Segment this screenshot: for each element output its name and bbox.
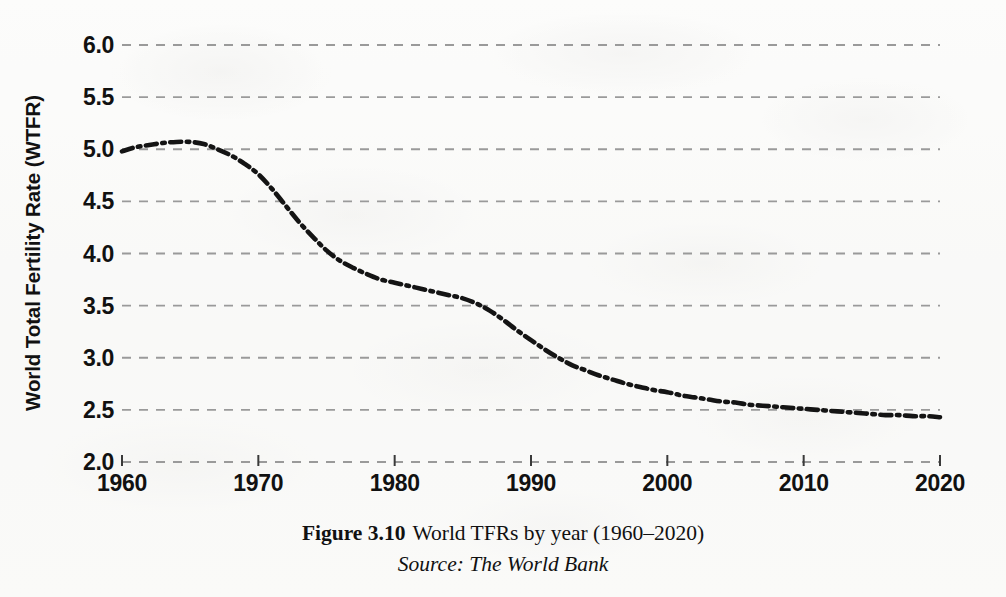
figure-number: Figure 3.10 <box>302 521 406 545</box>
x-axis-tick-marks <box>122 455 940 466</box>
figure-caption: Figure 3.10World TFRs by year (1960–2020… <box>0 521 1006 546</box>
wtfr-data-line <box>122 142 940 417</box>
plot-area <box>0 0 1006 500</box>
figure-page: World Total Fertility Rate (WTFR) 2.02.5… <box>0 0 1006 597</box>
line-chart: World Total Fertility Rate (WTFR) 2.02.5… <box>0 0 1006 597</box>
gridlines <box>122 45 940 462</box>
figure-source: Source: The World Bank <box>0 552 1006 577</box>
figure-caption-text: World TFRs by year (1960–2020) <box>412 521 704 545</box>
data-series-group <box>122 142 940 417</box>
